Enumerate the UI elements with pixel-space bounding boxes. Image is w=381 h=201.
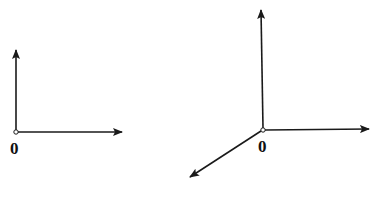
horizontal-axis-arrow — [265, 129, 369, 130]
origin-label: 0 — [258, 137, 267, 156]
origin-label: 0 — [10, 139, 19, 158]
vertical-axis-arrow — [261, 10, 263, 128]
figure-2d-axes: 0 — [10, 50, 122, 158]
origin-point — [261, 128, 265, 132]
figure-3d-axes: 0 — [190, 10, 369, 177]
axes-diagram: 0 0 — [0, 0, 381, 201]
origin-point — [14, 130, 18, 134]
depth-axis-arrow — [190, 131, 261, 177]
